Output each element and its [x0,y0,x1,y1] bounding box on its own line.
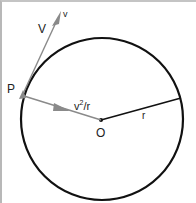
circular-motion-diagram: P V v v2/r O r [0,0,196,203]
radius-line [101,98,181,120]
label-p: P [7,82,15,96]
diagram-frame: P V v v2/r O r [0,0,196,203]
label-velocity-big: V [38,22,46,36]
label-radius: r [142,110,146,121]
label-velocity-small: v [63,9,68,19]
label-center-o: O [96,126,105,140]
label-acceleration: v2/r [74,99,90,112]
